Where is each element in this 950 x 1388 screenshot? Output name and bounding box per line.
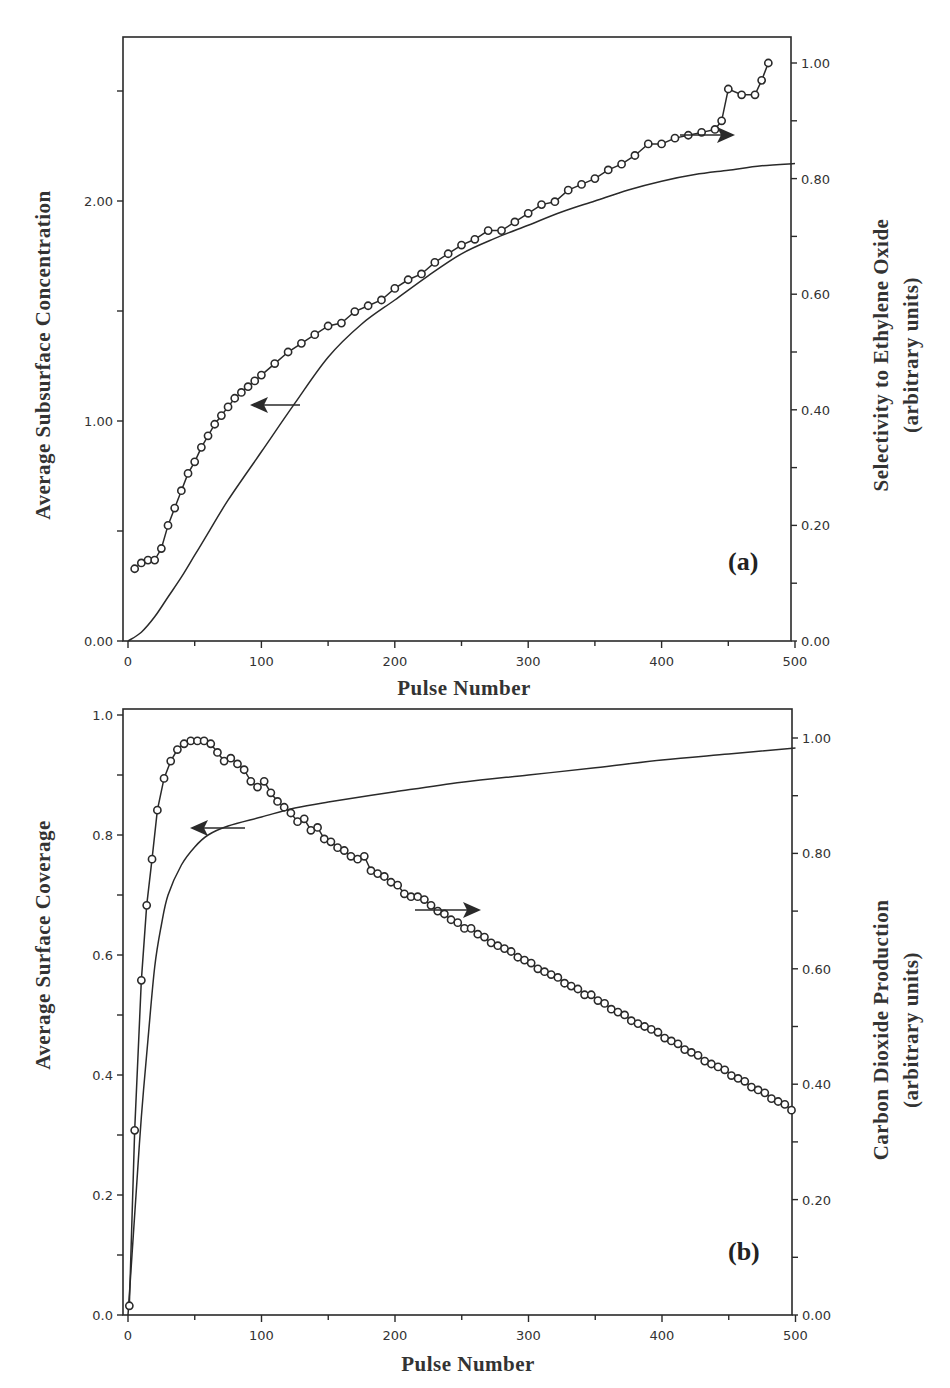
data-point-circle-icon [645, 140, 652, 147]
panel-b-series [126, 737, 796, 1315]
x-tick-label: 100 [249, 654, 274, 669]
data-point-circle-icon [238, 389, 245, 396]
data-point-circle-icon [204, 432, 211, 439]
data-point-circle-icon [171, 504, 178, 511]
left-y-tick-label: 0.8 [92, 828, 113, 843]
right-y-tick-label: 0.40 [801, 403, 830, 418]
data-point-circle-icon [211, 421, 218, 428]
data-point-circle-icon [126, 1302, 133, 1309]
data-point-circle-icon [224, 403, 231, 410]
data-point-circle-icon [154, 807, 161, 814]
data-point-circle-icon [301, 815, 308, 822]
data-point-circle-icon [511, 218, 518, 225]
data-point-circle-icon [721, 1066, 728, 1073]
data-point-circle-icon [671, 135, 678, 142]
data-point-circle-icon [160, 775, 167, 782]
data-point-circle-icon [351, 308, 358, 315]
left-y-tick-label: 2.00 [84, 194, 113, 209]
panel-b-left-arrow-icon [190, 820, 245, 836]
data-point-circle-icon [247, 778, 254, 785]
data-point-circle-icon [231, 395, 238, 402]
panel-a-label: (a) [728, 547, 758, 576]
data-point-circle-icon [618, 161, 625, 168]
data-point-circle-icon [431, 259, 438, 266]
right-y-tick-label: 0.60 [802, 962, 831, 977]
panel-b-left-axis-title: Average Surface Coverage [31, 820, 55, 1070]
data-point-circle-icon [631, 152, 638, 159]
right-y-tick-label: 0.00 [802, 1308, 831, 1323]
panel-a-right-axis-title-line1: Selectivity to Ethylene Oxide [869, 219, 893, 492]
data-point-circle-icon [267, 789, 274, 796]
panel-a: 01002003004005000.001.002.000.000.200.40… [31, 37, 923, 700]
left-y-tick-label: 0.00 [84, 634, 113, 649]
data-point-circle-icon [287, 809, 294, 816]
data-point-circle-icon [427, 902, 434, 909]
data-point-circle-icon [174, 746, 181, 753]
data-point-circle-icon [184, 470, 191, 477]
panel-b-label: (b) [728, 1237, 760, 1266]
x-tick-label: 400 [649, 654, 674, 669]
left-y-tick-label: 0.6 [92, 948, 113, 963]
data-point-circle-icon [131, 1127, 138, 1134]
figure: 01002003004005000.001.002.000.000.200.40… [0, 0, 950, 1388]
data-point-circle-icon [471, 236, 478, 243]
data-point-circle-icon [325, 322, 332, 329]
data-point-circle-icon [198, 444, 205, 451]
panel-b-right-axis-title-line2: (arbitrary units) [899, 952, 923, 1108]
data-point-circle-icon [508, 948, 515, 955]
data-point-circle-icon [751, 91, 758, 98]
data-point-circle-icon [711, 126, 718, 133]
data-point-circle-icon [454, 919, 461, 926]
data-point-circle-icon [311, 331, 318, 338]
left-y-tick-label: 1.00 [84, 414, 113, 429]
data-point-circle-icon [528, 959, 535, 966]
data-point-circle-icon [341, 847, 348, 854]
x-tick-label: 500 [783, 1328, 808, 1343]
panel-b: 01002003004005000.00.20.40.60.81.00.000.… [31, 708, 923, 1376]
data-point-circle-icon [441, 910, 448, 917]
right-y-tick-label: 0.00 [801, 634, 830, 649]
data-point-circle-icon [261, 778, 268, 785]
data-point-circle-icon [578, 181, 585, 188]
panel-b-frame [123, 709, 792, 1315]
data-point-circle-icon [674, 1040, 681, 1047]
data-point-circle-icon [271, 360, 278, 367]
data-point-circle-icon [551, 198, 558, 205]
data-point-circle-icon [391, 285, 398, 292]
x-tick-label: 200 [382, 654, 407, 669]
data-point-circle-icon [164, 522, 171, 529]
data-point-circle-icon [718, 117, 725, 124]
data-point-circle-icon [227, 755, 234, 762]
data-point-circle-icon [234, 760, 241, 767]
data-point-circle-icon [191, 458, 198, 465]
data-point-circle-icon [565, 187, 572, 194]
data-point-circle-icon [158, 545, 165, 552]
x-tick-label: 500 [783, 654, 808, 669]
data-point-circle-icon [178, 487, 185, 494]
data-point-circle-icon [421, 896, 428, 903]
data-point-circle-icon [131, 565, 138, 572]
data-point-circle-icon [554, 974, 561, 981]
x-tick-label: 300 [516, 654, 541, 669]
panel-a-left-arrow-icon [250, 397, 300, 413]
x-tick-label: 0 [124, 654, 132, 669]
data-point-circle-icon [498, 227, 505, 234]
right-y-tick-label: 1.00 [801, 56, 830, 71]
data-point-circle-icon [458, 241, 465, 248]
panel-a-series [128, 59, 795, 641]
data-point-circle-icon [658, 140, 665, 147]
data-point-circle-icon [467, 925, 474, 932]
data-point-circle-icon [654, 1029, 661, 1036]
data-point-circle-icon [298, 340, 305, 347]
panel-a-frame [123, 37, 791, 641]
curve-line [128, 748, 796, 1315]
data-point-circle-icon [738, 91, 745, 98]
data-point-circle-icon [254, 783, 261, 790]
data-point-circle-icon [605, 166, 612, 173]
panel-a-ticks: 01002003004005000.001.002.000.000.200.40… [84, 56, 830, 669]
data-point-circle-icon [574, 985, 581, 992]
panel-b-x-axis-title: Pulse Number [401, 1352, 535, 1376]
panel-a-right-arrow-icon [680, 127, 735, 143]
data-point-circle-icon [481, 933, 488, 940]
data-point-circle-icon [207, 740, 214, 747]
